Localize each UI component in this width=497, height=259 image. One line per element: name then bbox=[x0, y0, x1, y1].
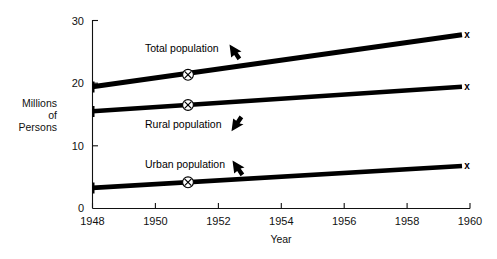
y-tick-label-10: 10 bbox=[72, 140, 84, 152]
total-population-endpoint-marker: x bbox=[464, 29, 470, 40]
series-urban-population: x Urban population bbox=[93, 158, 471, 194]
x-tick-label-1948: 1948 bbox=[80, 215, 104, 227]
x-tick-label-1960: 1960 bbox=[458, 215, 482, 227]
x-tick-label-1952: 1952 bbox=[206, 215, 230, 227]
total-population-marker bbox=[183, 69, 194, 80]
population-line-chart: 30 20 10 0 1948 1950 1952 1954 1956 1958… bbox=[0, 0, 497, 259]
urban-population-label: Urban population bbox=[145, 158, 225, 170]
rural-population-endpoint-marker: x bbox=[464, 81, 470, 92]
urban-population-pointer-icon bbox=[233, 161, 245, 177]
y-axis-title: Millions of Persons bbox=[18, 97, 57, 133]
urban-population-endpoint-marker: x bbox=[464, 160, 470, 171]
x-tick-label-1954: 1954 bbox=[269, 215, 293, 227]
y-axis-title-line-2: of bbox=[48, 109, 57, 121]
y-tick-label-20: 20 bbox=[72, 77, 84, 89]
x-tick-label-1958: 1958 bbox=[395, 215, 419, 227]
y-tick-label-30: 30 bbox=[72, 15, 84, 27]
series-total-population: x Total population bbox=[93, 29, 471, 93]
x-tick-marks bbox=[93, 203, 471, 209]
rural-population-pointer-icon bbox=[232, 116, 244, 132]
x-tick-label-1950: 1950 bbox=[143, 215, 167, 227]
y-tick-labels: 30 20 10 0 bbox=[72, 15, 84, 215]
x-tick-label-1956: 1956 bbox=[332, 215, 356, 227]
rural-population-marker bbox=[183, 100, 194, 111]
chart-canvas: 30 20 10 0 1948 1950 1952 1954 1956 1958… bbox=[0, 0, 497, 259]
y-axis-title-line-3: Persons bbox=[18, 121, 57, 133]
total-population-pointer-icon bbox=[230, 45, 242, 61]
urban-population-marker bbox=[183, 177, 194, 188]
x-axis-title: Year bbox=[270, 233, 292, 245]
rural-population-line bbox=[93, 87, 463, 112]
total-population-label: Total population bbox=[145, 42, 219, 54]
x-tick-labels: 1948 1950 1952 1954 1956 1958 1960 bbox=[80, 215, 482, 227]
series-rural-population: x Rural population bbox=[93, 81, 471, 131]
y-tick-label-0: 0 bbox=[78, 202, 84, 214]
rural-population-label: Rural population bbox=[145, 118, 222, 130]
y-axis-title-line-1: Millions bbox=[22, 97, 57, 109]
